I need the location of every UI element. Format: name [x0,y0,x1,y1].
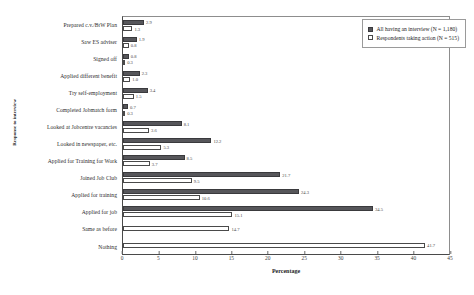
bar-group: 2.31.0 [123,68,449,85]
bar-slot: 5.3 [123,145,449,150]
bar-slot: 2.3 [123,71,449,76]
x-tick-label: 35 [374,255,379,261]
bar-group: 8.13.6 [123,119,449,136]
bar[interactable] [123,121,182,126]
bar[interactable] [123,26,132,31]
x-tick-label: 10 [192,255,197,261]
bar-rows: 2.91.31.90.80.80.32.31.03.41.50.70.38.13… [123,17,449,254]
bar[interactable] [123,212,232,217]
legend-label: All having an interview (N = 1,180) [376,26,457,32]
x-tick-mark [450,251,451,254]
bar-slot: 0.8 [123,54,449,59]
category-label: Looked in newspaper, etc. [0,136,120,153]
y-axis-category-labels: Prepared c.v./BtW PlanSaw ES adviserSign… [0,16,120,255]
bar-value-label: 34.5 [373,206,383,211]
bar-value-label: 3.6 [149,128,157,133]
bar[interactable] [123,178,192,183]
bar-group: 21.79.5 [123,169,449,186]
bar-value-label: 2.3 [140,71,148,76]
chart-legend: All having an interview (N = 1,180)Respo… [362,19,466,48]
bar-value-label: 2.9 [144,20,152,25]
bar-slot: 24.3 [123,189,449,194]
bar[interactable] [123,71,140,76]
bar-slot: 0.3 [123,60,449,65]
bar-value-label: 41.7 [425,243,435,248]
category-label: Signed off [0,50,120,67]
legend-swatch [368,35,373,40]
bar[interactable] [123,145,161,150]
x-tick-mark [268,251,269,254]
bar-value-label: 0.3 [125,111,133,116]
category-label: Applied for job [0,204,120,221]
bar[interactable] [123,128,149,133]
bar[interactable] [123,226,229,231]
bar-slot: 1.5 [123,94,449,99]
x-tick-label: 25 [302,255,307,261]
x-axis-title: Percentage [122,268,450,274]
bar-slot: 8.1 [123,121,449,126]
bar[interactable] [123,172,280,177]
x-tick-label: 20 [265,255,270,261]
bar[interactable] [123,88,148,93]
bar-slot: 12.2 [123,138,449,143]
x-tick-mark [195,251,196,254]
plot-area: 2.91.31.90.80.80.32.31.03.41.50.70.38.13… [122,16,450,255]
bar-group: 8.53.7 [123,152,449,169]
bar-value-label: 12.2 [211,138,221,143]
bar-value-label: 0.8 [129,43,137,48]
bar-value-label: 21.7 [280,172,290,177]
bar-value-label: 10.6 [200,195,210,200]
category-label: Prepared c.v./BtW Plan [0,16,120,33]
bar-slot: 3.7 [123,161,449,166]
bar-value-label: 24.3 [299,189,309,194]
bar-slot: 21.7 [123,172,449,177]
x-tick-label: 40 [411,255,416,261]
bar[interactable] [123,20,144,25]
bar-group: 12.25.3 [123,135,449,152]
bar-slot: 9.5 [123,178,449,183]
bar-slot: 41.7 [123,243,449,248]
bar[interactable] [123,77,130,82]
legend-item[interactable]: All having an interview (N = 1,180) [368,26,459,32]
category-label: Joined Job Club [0,170,120,187]
bar-group: 0.70.3 [123,102,449,119]
category-label: Nothing [0,238,120,255]
bar-value-label: 8.1 [182,121,190,126]
bar[interactable] [123,195,200,200]
bar-value-label: 1.5 [134,94,142,99]
x-tick-label: 5 [157,255,160,261]
bar-slot: 15.1 [123,212,449,217]
x-tick-mark [304,251,305,254]
bar-slot: 0.3 [123,111,449,116]
bar-slot: 34.5 [123,206,449,211]
bar[interactable] [123,37,137,42]
bar-value-label: 9.5 [192,178,200,183]
bar[interactable] [123,138,211,143]
category-label: Saw ES adviser [0,33,120,50]
legend-label: Respondents taking action (N = 515) [376,35,459,41]
bar-slot: 14.7 [123,226,449,231]
bar-value-label: 15.1 [232,212,242,217]
legend-item[interactable]: Respondents taking action (N = 515) [368,35,459,41]
x-tick-mark [341,251,342,254]
bar[interactable] [123,243,425,248]
bar-value-label: 0.7 [128,104,136,109]
x-tick-mark [122,251,123,254]
bar-group: 0.80.3 [123,51,449,68]
x-tick-label: 15 [229,255,234,261]
bar-slot: 10.6 [123,195,449,200]
x-tick-mark [414,251,415,254]
bar-group: 24.310.6 [123,186,449,203]
category-label: Same as before [0,221,120,238]
bar[interactable] [123,155,185,160]
bar[interactable] [123,94,134,99]
category-label: Try self-employment [0,84,120,101]
bar[interactable] [123,206,373,211]
bar-group: 34.515.1 [123,203,449,220]
bar[interactable] [123,189,299,194]
category-label: Looked at Jobcentre vacancies [0,118,120,135]
category-label: Completed Jobmatch form [0,101,120,118]
bar-group: 41.7 [123,237,449,254]
bar-slot: 1.0 [123,77,449,82]
bar[interactable] [123,161,150,166]
